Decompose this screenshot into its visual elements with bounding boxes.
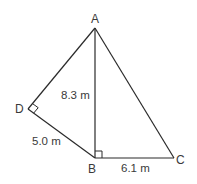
vertex-label-a: A [91, 12, 99, 26]
geometry-diagram: A D B C 8.3 m 5.0 m 6.1 m [0, 0, 197, 184]
measurement-bc: 6.1 m [121, 162, 150, 174]
measurement-ab: 8.3 m [61, 89, 90, 101]
measurement-db: 5.0 m [32, 135, 61, 147]
segment-ac [95, 28, 174, 158]
segment-db [28, 109, 95, 158]
right-angle-marker-d [33, 104, 39, 114]
vertex-label-d: D [15, 102, 24, 116]
vertex-label-c: C [176, 153, 185, 167]
right-angle-marker-b [95, 151, 102, 158]
vertex-label-b: B [88, 162, 96, 176]
